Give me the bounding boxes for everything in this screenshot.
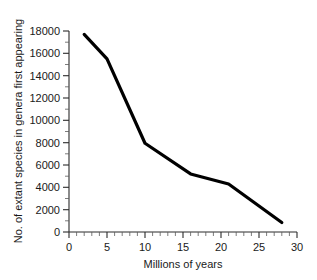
- y-tick-label: 14000: [29, 70, 60, 82]
- x-tick-label: 20: [215, 241, 227, 253]
- y-tick-label: 12000: [29, 92, 60, 104]
- y-tick-label: 18000: [29, 25, 60, 37]
- x-tick-label: 5: [104, 241, 110, 253]
- x-tick-label: 10: [139, 241, 151, 253]
- x-axis-tick-labels: 0 5 10 15 20 25 30: [66, 241, 303, 253]
- x-axis-title: Millions of years: [144, 258, 223, 270]
- y-axis-minor-ticks: [65, 42, 69, 221]
- y-tick-label: 0: [54, 226, 60, 238]
- y-tick-label: 6000: [36, 159, 60, 171]
- y-tick-label: 10000: [29, 114, 60, 126]
- plot-area: [69, 28, 297, 232]
- line-chart: 0 2000 4000 6000 8000 10000 12000 14000 …: [0, 0, 317, 280]
- chart-container: 0 2000 4000 6000 8000 10000 12000 14000 …: [0, 0, 317, 280]
- y-tick-label: 2000: [36, 204, 60, 216]
- y-axis-tick-labels: 0 2000 4000 6000 8000 10000 12000 14000 …: [29, 25, 60, 238]
- x-tick-label: 30: [291, 241, 303, 253]
- y-tick-label: 4000: [36, 181, 60, 193]
- y-tick-label: 16000: [29, 47, 60, 59]
- x-tick-label: 25: [253, 241, 265, 253]
- x-axis-ticks: [69, 232, 297, 238]
- x-tick-label: 15: [177, 241, 189, 253]
- y-tick-label: 8000: [36, 137, 60, 149]
- y-axis-title: No. of extant species in genera first ap…: [12, 19, 24, 243]
- x-tick-label: 0: [66, 241, 72, 253]
